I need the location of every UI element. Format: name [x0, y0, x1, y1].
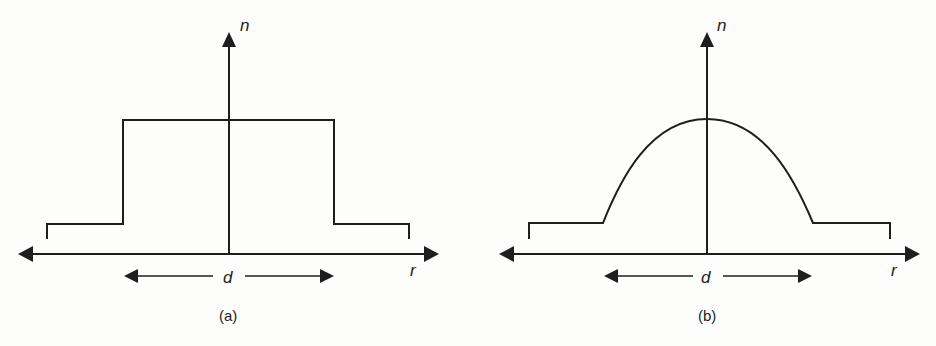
- up-arrowhead-icon: [222, 32, 236, 47]
- right-arrowhead-icon: [798, 269, 812, 283]
- diameter-label: d: [223, 268, 233, 287]
- graded-index-profile: [529, 119, 890, 239]
- panel-caption: (b): [698, 307, 716, 324]
- panel-caption: (a): [219, 307, 237, 324]
- n-axis-b: [700, 32, 714, 254]
- x-axis-label: r: [891, 261, 898, 280]
- left-arrowhead-icon: [604, 269, 618, 283]
- y-axis-label: n: [717, 16, 726, 35]
- panel-a: n r d (a): [18, 16, 439, 324]
- right-arrowhead-icon: [424, 246, 439, 262]
- right-arrowhead-icon: [905, 246, 920, 262]
- panel-b: n r d (b): [499, 16, 920, 324]
- diameter-label: d: [701, 268, 711, 287]
- up-arrowhead-icon: [700, 32, 714, 47]
- right-arrowhead-icon: [320, 269, 334, 283]
- left-arrowhead-icon: [124, 269, 138, 283]
- y-axis-label: n: [240, 16, 249, 35]
- r-axis-b: [499, 246, 920, 262]
- x-axis-label: r: [410, 261, 417, 280]
- left-arrowhead-icon: [18, 246, 33, 262]
- n-axis-a: [222, 32, 236, 254]
- left-arrowhead-icon: [499, 246, 514, 262]
- refractive-index-profiles-figure: n r d (a) n r d (b): [0, 0, 936, 346]
